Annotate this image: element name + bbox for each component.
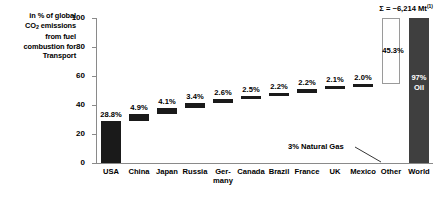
world-oil-label: 97% Oil: [409, 73, 429, 92]
bar-china: [129, 114, 149, 121]
bar-value-label-japan: 4.1%: [153, 98, 181, 106]
y-axis-caption: in % of global CO2 emissions from fuel c…: [2, 11, 76, 61]
x-label-canada: Canada: [237, 167, 265, 176]
natural-gas-leader-line: [355, 147, 383, 163]
y-axis-line: [96, 18, 97, 164]
y-tick-40: 40: [92, 105, 97, 106]
caption-line-1: in % of global: [29, 11, 76, 20]
x-label-usa: USA: [97, 167, 125, 176]
x-label-russia: Russia: [181, 167, 209, 176]
x-label-uk: UK: [321, 167, 349, 176]
bar-ger--many: [213, 99, 233, 103]
bar-value-label-canada: 2.5%: [237, 86, 265, 94]
bar-value-label-russia: 3.4%: [181, 93, 209, 101]
y-tick-label-0: 0: [81, 159, 85, 167]
y-tick-60: 60: [92, 76, 97, 77]
waterfall-chart: in % of global CO2 emissions from fuel c…: [0, 0, 436, 200]
x-label-germany: Ger- many: [209, 167, 237, 185]
x-label-france: France: [293, 167, 321, 176]
caption-line-3: from fuel: [45, 32, 76, 41]
caption-line-4: combustion for: [24, 42, 76, 51]
caption-line-5: Transport: [43, 51, 76, 60]
caption-line-2-post: emissions: [39, 21, 76, 30]
x-label-other: Other: [377, 167, 405, 176]
bar-japan: [157, 108, 177, 114]
caption-line-2-pre: CO: [25, 21, 36, 30]
x-label-japan: Japan: [153, 167, 181, 176]
y-tick-100: 100: [92, 18, 97, 19]
bar-usa: [101, 121, 121, 163]
y-tick-80: 80: [92, 47, 97, 48]
bar-uk: [325, 86, 345, 89]
bar-value-label-brazil: 2.2%: [265, 83, 293, 91]
plot-area: 020406080100 28.8%4.9%4.1%3.4%2.6%2.5%2.…: [97, 18, 433, 163]
bar-mexico: [353, 84, 373, 87]
bar-canada: [241, 96, 261, 100]
bar-brazil: [269, 93, 289, 96]
bar-value-label-mexico: 2.0%: [349, 74, 377, 82]
y-tick-label-20: 20: [76, 130, 85, 138]
y-tick-label-80: 80: [76, 43, 85, 51]
bar-value-label-usa: 28.8%: [97, 111, 125, 119]
y-tick-20: 20: [92, 134, 97, 135]
y-tick-label-40: 40: [76, 101, 85, 109]
bar-france: [297, 89, 317, 92]
bar-value-label-ger--many: 2.6%: [209, 89, 237, 97]
y-tick-0: 0: [92, 163, 97, 164]
sum-annotation-text: Σ = ~6,214 Mt: [379, 4, 427, 13]
bar-value-label-other: 45.3%: [382, 47, 399, 55]
bar-value-label-uk: 2.1%: [321, 76, 349, 84]
x-label-china: China: [125, 167, 153, 176]
natural-gas-annotation: 3% Natural Gas: [288, 142, 344, 151]
x-label-mexico: Mexico: [349, 167, 377, 176]
sum-annotation: Σ = ~6,214 Mt(1): [379, 3, 433, 13]
y-tick-label-100: 100: [72, 14, 85, 22]
y-tick-label-60: 60: [76, 72, 85, 80]
bar-russia: [185, 103, 205, 108]
bar-value-label-china: 4.9%: [125, 104, 153, 112]
x-axis-line: [96, 163, 433, 164]
x-label-world: World: [405, 167, 433, 176]
sum-annotation-footnote: (1): [427, 3, 433, 9]
x-label-brazil: Brazil: [265, 167, 293, 176]
bar-value-label-france: 2.2%: [293, 79, 321, 87]
